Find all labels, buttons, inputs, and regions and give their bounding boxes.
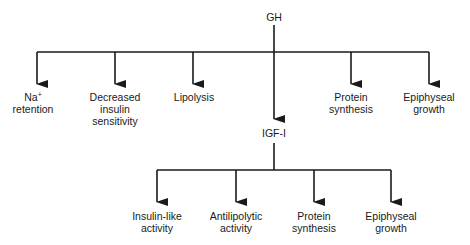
gh-effect-decreased-insulin-sensitivity: Decreased insulin sensitivity <box>90 91 141 127</box>
igf-effect-antilipolytic-activity: Antilipolytic activity <box>210 210 263 234</box>
effect-line: growth <box>403 103 454 115</box>
igf-effect-protein-synthesis: Protein synthesis <box>292 210 336 234</box>
effect-line: Lipolysis <box>174 91 214 103</box>
effect-line: synthesis <box>292 222 336 234</box>
gh-label: GH <box>266 11 282 23</box>
igf1-node: IGF-I <box>262 127 286 139</box>
effect-line: Antilipolytic <box>210 210 263 222</box>
gh-effect-protein-synthesis: Protein synthesis <box>329 91 373 115</box>
igf1-label: IGF-I <box>262 127 286 139</box>
gh-node: GH <box>266 11 282 23</box>
effect-line: synthesis <box>329 103 373 115</box>
effect-line: activity <box>132 222 182 234</box>
effect-line: activity <box>210 222 263 234</box>
effect-line: sensitivity <box>90 115 141 127</box>
effect-line: retention <box>13 103 54 115</box>
gh-effect-na-retention: Na+ retention <box>13 91 54 115</box>
effect-line: Epiphyseal <box>403 91 454 103</box>
gh-effect-lipolysis: Lipolysis <box>174 91 214 103</box>
igf-effect-epiphyseal-growth: Epiphyseal growth <box>365 210 416 234</box>
effect-line: insulin <box>90 103 141 115</box>
effect-line: Protein <box>329 91 373 103</box>
diagram-connectors <box>0 0 470 245</box>
igf-effect-insulin-like-activity: Insulin-like activity <box>132 210 182 234</box>
gh-effect-epiphyseal-growth: Epiphyseal growth <box>403 91 454 115</box>
na-label: Na+ <box>13 91 54 103</box>
effect-line: growth <box>365 222 416 234</box>
effect-line: Epiphyseal <box>365 210 416 222</box>
effect-line: Protein <box>292 210 336 222</box>
effect-line: Decreased <box>90 91 141 103</box>
effect-line: Insulin-like <box>132 210 182 222</box>
